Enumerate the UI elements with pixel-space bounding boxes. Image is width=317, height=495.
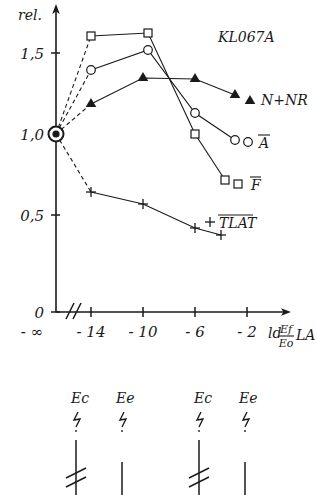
legend-label-a: A [257,135,269,151]
series-n-nr-line [91,78,235,104]
legend-marker-tlat [205,217,215,227]
series-f-point [87,32,95,40]
axis-break-icon [66,303,81,319]
y-tick-label-15: 1,5 [20,45,44,63]
x-axis-label-suffix: LA [295,327,315,343]
series-tlat-dashed-lead [56,134,91,192]
lightning-arrow-icon [197,412,203,432]
x-tick-label-10: - 10 [129,323,158,341]
legend-label-f-group: F [250,177,262,193]
x-tick-label-6: - 6 [185,323,205,341]
diagram-label-ec: Ec [193,390,212,406]
series-a-line [91,50,235,140]
legend-label-tlat: TLAT [219,215,258,231]
legend-marker-f [234,180,242,188]
diagram-group-right: Ec Ee [189,390,258,495]
y-axis-label: rel. [18,7,42,23]
series-tlat [56,134,226,240]
series-f-point [221,176,229,184]
series-a-point [231,136,240,145]
series-a-point [87,66,96,75]
legend-marker-n-nr [245,95,256,104]
y-tick-label-0: 0 [34,304,44,322]
diagram-label-ee: Ee [115,390,135,406]
legend-label-tlat-group: TLAT [218,215,258,231]
legend-label-f: F [250,177,262,193]
x-tick-label-2: - 2 [237,323,256,341]
lightning-arrow-icon [120,412,126,432]
lightning-arrow-icon [74,412,80,432]
lightning-arrow-icon [243,412,249,432]
series-a-point [191,109,200,118]
series-a-point [144,46,153,55]
bottom-diagram: Ec Ee Ec Ee [66,390,258,495]
diagram-group-left: Ec Ee [66,390,135,495]
series-n-nr-point [190,73,201,82]
series-tlat-line [91,192,221,235]
origin-marker [49,127,64,142]
series-a [56,46,239,145]
x-tick-label-14: - 14 [77,323,106,341]
legend-marker-a [244,138,253,147]
legend: N+NR A F TLAT [205,92,308,231]
x-axis-label-numerator: Ef [279,323,294,336]
diagram-label-ee: Ee [238,390,258,406]
series-f-line [91,33,225,180]
diagram-label-ec: Ec [70,390,89,406]
y-tick-label-05: 0,5 [20,207,44,225]
legend-label-a-group: A [257,135,270,151]
series-f-point [191,130,199,138]
series-f-point [144,29,152,37]
axis-group [51,4,291,319]
x-axis-label-denominator: Eo [278,337,294,350]
y-tick-label-10: 1,0 [20,126,44,144]
series-a-dashed-lead [56,70,91,134]
x-axis-label: ld Ef Eo LA [268,323,315,350]
legend-label-n-nr: N+NR [260,92,308,108]
page-title: KL067A [217,29,275,45]
figure-root: 0 0,5 1,0 1,5 - ∞ - 14 - 10 - 6 - 2 rel.… [0,0,317,495]
series-n-nr-point [138,72,149,81]
x-tick-label-neg-inf: - ∞ [21,323,43,341]
